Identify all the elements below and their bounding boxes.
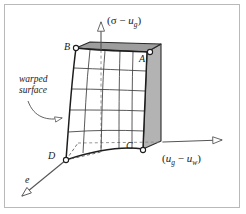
figure-container: (σ − ug) (ug − uw) e B A C D warped surf… [0,0,246,214]
vertical-axis-label-prefix: (σ − [107,14,128,26]
corner-label-a: A [139,53,145,64]
corner-label-c: C [126,140,133,151]
vertical-axis-label-suffix: ) [138,14,142,26]
corner-marker-d [63,157,68,162]
corner-label-d: D [48,150,55,161]
horizontal-axis-line [163,140,222,142]
horizontal-axis-label-mid: − [175,152,187,164]
diagram-canvas [0,0,246,214]
depth-axis-label: e [25,174,29,185]
corner-marker-c [140,147,145,152]
warped-surface-leader [28,101,62,119]
corner-marker-b [73,45,78,50]
corner-label-b: B [64,41,70,52]
horizontal-axis-label: (ug − uw) [162,152,201,167]
horizontal-axis-label-suffix: ) [197,152,201,164]
warped-surface-annotation: warped surface [19,74,48,96]
warped-surface-annotation-line2: surface [19,85,48,96]
warped-surface-annotation-line1: warped [19,74,48,85]
corner-marker-a [147,49,152,54]
vertical-axis-label: (σ − ug) [107,14,141,29]
